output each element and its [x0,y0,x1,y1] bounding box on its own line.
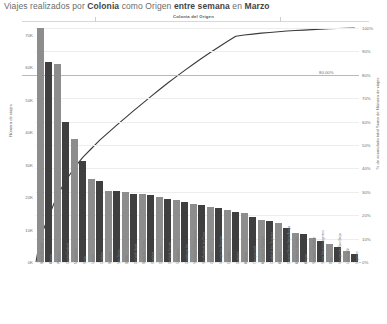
y-tick-left: 60K [25,65,33,70]
y-tick-left: 40K [25,130,33,135]
y-tick-right: 40% [362,166,371,171]
bar[interactable] [45,62,52,262]
bar[interactable] [79,161,86,262]
x-axis-label: San Pedro de los Pinos [203,232,206,264]
x-axis-label: Insurgentes San Borja [339,233,342,264]
y-tick-right: 70% [362,96,371,101]
chart-title: Viajes realizados por Colonia como Orige… [4,1,270,11]
y-tick-left: 70K [25,32,33,37]
x-axis-label: Barrio del Centro [143,241,146,264]
y-tick-right: 100% [362,26,373,31]
y-tick-right: 90% [362,49,371,54]
y-axis-label-right: % de acumulado total Suma de Número de v… [375,80,380,170]
reference-line-label: 80.00% [319,69,334,74]
title-bold-colonia: Colonia [87,1,119,11]
x-axis-label: Doctores [237,252,240,264]
plot-area: 0K10K20K30K40K50K60K70K0%10%20%30%40%50%… [36,28,359,262]
y-tick-left: 10K [25,227,33,232]
x-axis-label: Anahuac [245,252,248,264]
x-axis-label: Lomas [92,255,95,264]
title-bold-entre-semana: entre semana [174,1,230,11]
y-tick-right: 30% [362,189,371,194]
y-tick-right: 60% [362,119,371,124]
x-axis-label: Escandon [228,250,231,264]
x-axis-label: Microcentro [75,248,78,264]
x-axis-label: Letran Valle [347,248,350,264]
x-axis-label: Tabacalera [177,249,180,264]
gridline [36,98,359,99]
top-tick-mark [95,17,96,22]
x-axis-label: Del Valle Norte [135,243,138,264]
x-axis-label: Irrigacion [356,251,359,264]
x-axis-label: Xoco [330,257,333,264]
x-axis-label: Capital Federal [67,243,70,264]
x-axis-label: Barracas [109,252,112,264]
gridline [36,51,359,52]
x-axis-label: Del Valle Sur [160,246,163,264]
y-tick-left: 50K [25,97,33,102]
x-axis-label: Ampliacion Granada [262,236,265,264]
bar[interactable] [71,139,78,263]
x-axis-label: Ampliacion Napoles [296,237,299,264]
bar[interactable] [37,28,44,262]
bar[interactable] [96,181,103,262]
title-bold-marzo: Marzo [244,1,269,11]
y-tick-right: 0% [362,260,368,265]
x-axis-title: Colonia del Origen [0,14,387,19]
y-tick-right: 20% [362,213,371,218]
gridline [36,28,359,29]
top-border-rule [22,21,369,22]
x-axis-label: Recoleta [152,252,155,264]
x-axis-label: General Pedro Maria Anaya [288,226,291,264]
x-axis-label: Del Valle Centro [169,242,172,264]
top-tick-mark [280,17,281,22]
bar[interactable] [122,192,129,262]
bar[interactable] [54,64,61,262]
x-axis-label: Retiro [84,256,87,264]
y-tick-right: 10% [362,236,371,241]
bar[interactable] [62,122,69,262]
y-tick-left: 20K [25,195,33,200]
y-axis-label-left: Número de viajes [8,91,13,151]
gridline [36,145,359,146]
y-tick-right: 80% [362,72,371,77]
x-axis-label: Tlacopanuxtli [254,246,257,264]
title-part-1: Viajes realizados por [4,1,87,11]
x-axis-label: Abasto [50,254,53,264]
x-axis-label: Santa Maria Insurgentes [322,230,325,264]
x-axis-label: Actipan [305,254,308,264]
x-axis-label: Granada [211,252,214,264]
reference-line-80 [22,75,359,76]
bar[interactable] [88,179,95,262]
x-axis-label: Insurgentes Mixcoac [220,236,223,264]
x-axis-label: Cordoba [101,252,104,264]
y-tick-left: 30K [25,162,33,167]
title-part-2: como Origen [119,1,174,11]
x-axis-label: San Miguel Chapultepec [194,230,197,264]
y-tick-right: 50% [362,143,371,148]
x-axis-label: Ciudad de los Deportes [271,232,274,264]
x-axis-label: Barrio Obelisco [41,243,44,264]
x-axis-label: Nonoalco Tlatelolco [313,237,316,264]
y-tick-left: 0K [28,260,33,265]
title-part-3: en [230,1,245,11]
gridline [36,122,359,123]
x-axis-label: Guadalupe Inn [186,244,189,264]
pareto-chart-figure: Viajes realizados por Colonia como Orige… [0,0,387,324]
x-axis-label: Boedo [126,255,129,264]
x-axis-label: Atlampa [279,253,282,264]
x-axis-label: San Telmo [118,249,121,264]
x-axis-label: Palermo [58,252,61,264]
